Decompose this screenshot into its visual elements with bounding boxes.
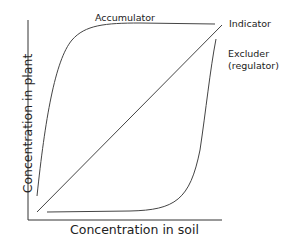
x-axis-label: Concentration in soil (70, 222, 199, 237)
diagram-canvas (0, 0, 284, 247)
excluder-curve (47, 39, 216, 212)
excluder-label-line2: (regulator) (228, 60, 279, 72)
indicator-line (37, 25, 222, 212)
y-axis-label: Concentration in plant (20, 49, 35, 199)
excluder-label: Excluder (regulator) (228, 48, 279, 72)
indicator-label: Indicator (229, 18, 271, 29)
accumulator-curve (37, 23, 215, 196)
excluder-label-line1: Excluder (228, 48, 279, 60)
accumulator-label: Accumulator (95, 12, 155, 23)
